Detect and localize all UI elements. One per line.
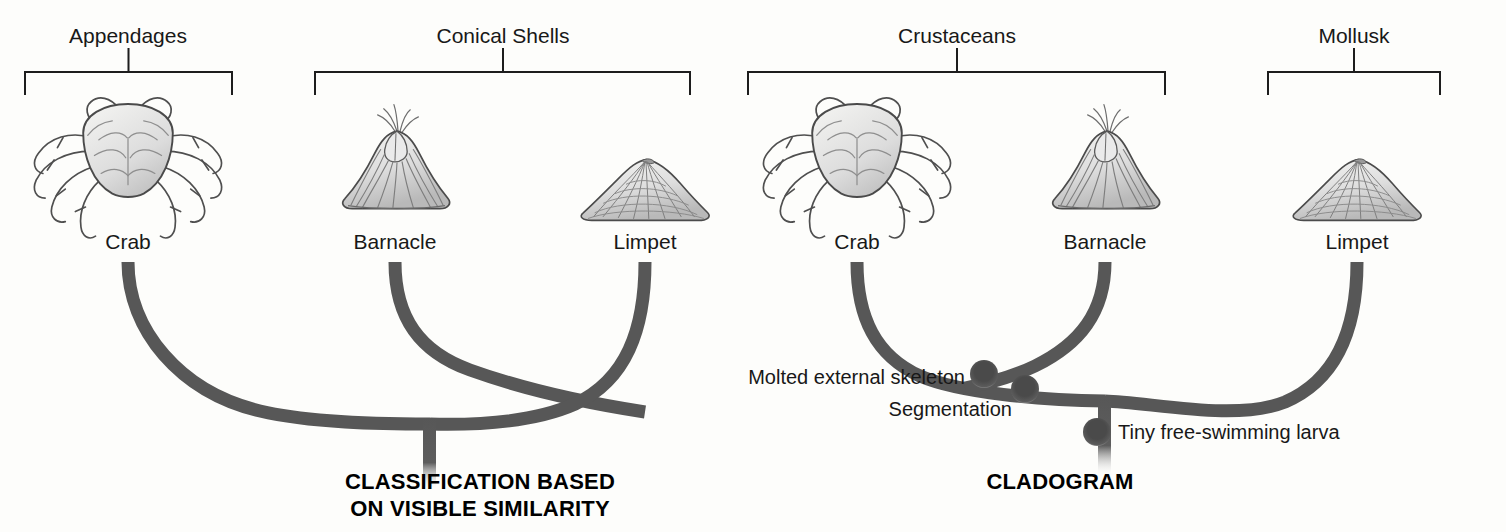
node-segmentation [1011,375,1039,403]
taxon-label-limpet-right: Limpet [1325,230,1388,254]
crab-illustration-right [763,98,950,238]
organism-illustrations [34,98,1421,238]
trait-label-molted-external-skeleton: Molted external skeleton [748,366,965,389]
caption-classification-based-on-visible-similarity: CLASSIFICATION BASED ON VISIBLE SIMILARI… [345,468,615,522]
crab-illustration-left [34,98,221,238]
taxon-label-crab-left: Crab [105,230,151,254]
taxon-label-crab-right: Crab [834,230,880,254]
trait-label-segmentation: Segmentation [889,398,1012,421]
bracket-mollusk [1268,48,1440,95]
group-label-mollusk: Mollusk [1318,24,1389,48]
group-label-conical-shells: Conical Shells [436,24,569,48]
barnacle-illustration-right [1053,105,1160,209]
branch-limpet-left [430,262,645,424]
limpet-illustration-left [581,159,709,221]
group-label-appendages: Appendages [69,24,187,48]
caption-cladogram: CLADOGRAM [986,468,1133,495]
taxon-label-barnacle-right: Barnacle [1064,230,1147,254]
cladogram-comparison-figure: Appendages Conical Shells Crustaceans Mo… [0,0,1506,532]
bracket-appendages [25,48,232,95]
barnacle-illustration-left [343,105,450,209]
taxon-label-limpet-left: Limpet [613,230,676,254]
node-tiny-free-swimming-larva [1083,418,1111,446]
node-molted-external-skeleton [970,360,998,388]
group-label-crustaceans: Crustaceans [898,24,1016,48]
branch-crab-left [128,262,430,424]
classification-tree [128,262,645,424]
taxon-label-barnacle-left: Barnacle [354,230,437,254]
trait-label-tiny-free-swimming-larva: Tiny free-swimming larva [1118,421,1340,444]
branch-limpet-right [1105,262,1357,411]
group-brackets [25,48,1440,95]
diagram-art-layer [0,0,1506,532]
bracket-crustaceans [748,48,1165,95]
bracket-conical-shells [315,48,690,95]
limpet-illustration-right [1293,159,1421,221]
